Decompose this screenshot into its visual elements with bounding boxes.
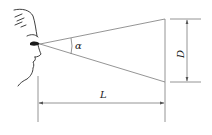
lower-sight-line <box>40 44 165 82</box>
arrow-down-icon <box>186 77 189 82</box>
distance-label: L <box>99 89 107 100</box>
face-profile-icon <box>14 9 41 86</box>
viewing-angle-diagram: α D L <box>0 0 212 135</box>
arrow-right-icon <box>160 102 165 105</box>
eye-icon <box>30 42 40 46</box>
height-label: D <box>175 50 186 59</box>
arrow-up-icon <box>186 20 189 25</box>
angle-label: α <box>75 40 82 51</box>
angle-arc <box>71 38 72 54</box>
arrow-left-icon <box>39 102 44 105</box>
upper-sight-line <box>40 19 165 44</box>
